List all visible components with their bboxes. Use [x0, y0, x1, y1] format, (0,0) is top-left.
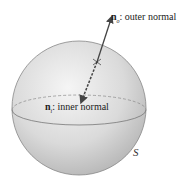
inner-normal-label: ni: inner normal — [45, 101, 109, 114]
outer-normal-text: : outer normal — [120, 11, 177, 22]
outer-normal-label: no: outer normal — [111, 11, 176, 24]
sphere-diagram — [0, 0, 191, 188]
inner-normal-text: : inner normal — [52, 101, 109, 112]
surface-label: S — [133, 146, 139, 158]
